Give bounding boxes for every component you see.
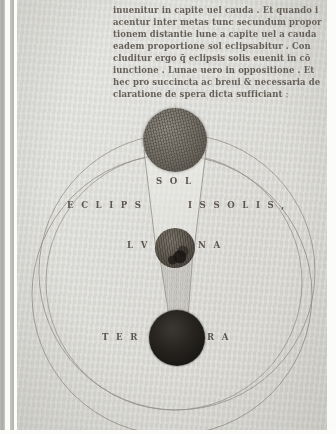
manuscript-page: S O L E C L I P S I S S O L I S , L V N … [0, 0, 336, 434]
parchment-leaf: S O L E C L I P S I S S O L I S , L V N … [17, 0, 327, 430]
page-edge-bottom [0, 430, 336, 434]
page-edge-right [327, 0, 336, 434]
parchment-vignette [17, 0, 327, 430]
